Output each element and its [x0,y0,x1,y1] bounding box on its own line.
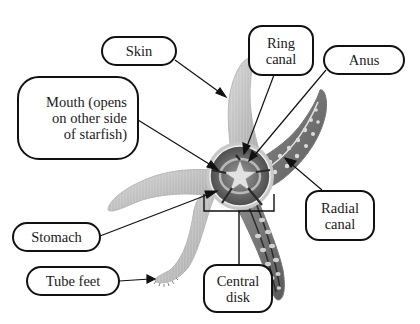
label-skin: Skin [101,36,177,66]
label-anus: Anus [323,45,405,75]
label-radial-canal-text: Radial canal [321,200,359,232]
central-disk-cutaway [206,142,274,210]
label-ring-canal-text: Ring canal [266,35,297,67]
label-skin-text: Skin [126,43,153,59]
label-radial-canal: Radial canal [305,190,375,241]
label-anus-text: Anus [349,52,380,68]
label-stomach-text: Stomach [31,229,82,245]
label-tube-feet-text: Tube feet [46,273,101,289]
label-mouth: Mouth (opens on other side of starfish) [17,76,139,160]
label-central-disk: Central disk [203,264,273,313]
label-ring-canal: Ring canal [248,25,314,76]
label-mouth-text: Mouth (opens on other side of starfish) [46,94,127,142]
label-stomach: Stomach [12,222,101,252]
starfish-diagram: Skin Mouth (opens on other side of starf… [0,0,420,324]
label-tube-feet: Tube feet [26,266,120,296]
label-central-disk-text: Central disk [217,273,260,305]
